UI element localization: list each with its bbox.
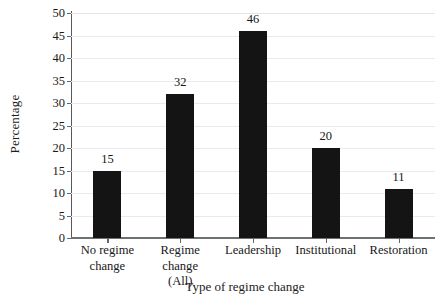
y-tick-mark [67,193,72,194]
y-tick-mark [67,13,72,14]
x-tick-mark [326,238,327,243]
y-tick-label: 25 [53,119,66,132]
bar [385,189,413,239]
y-tick-label: 45 [53,29,66,42]
bar [312,148,340,238]
y-tick-label: 5 [59,209,65,222]
y-tick-mark [67,81,72,82]
bar-value-label: 32 [174,76,187,89]
y-tick-label: 35 [53,74,66,87]
x-axis-title: Type of regime change [0,279,448,295]
y-tick-mark [67,126,72,127]
y-tick-label: 0 [59,232,65,245]
x-tick-label-line: Regime [161,243,200,259]
x-tick-label-line: Leadership [225,243,281,259]
bar-chart: Percentage 05101520253035404550 15324620… [0,0,448,299]
x-tick-label: No regimechange [81,243,135,274]
bar-value-label: 20 [320,130,333,143]
y-tick-label: 20 [53,142,66,155]
bar-value-label: 46 [247,13,260,26]
x-tick-mark [399,238,400,243]
y-tick-mark [67,58,72,59]
plot-area: 05101520253035404550 1532462011 [71,13,435,238]
x-tick-label: Institutional [295,243,356,259]
y-tick-mark [67,36,72,37]
y-tick-label: 50 [53,7,66,20]
x-tick-label-line: Restoration [370,243,428,259]
y-tick-label: 40 [53,52,66,65]
x-tick-mark [180,238,181,243]
x-tick-label-line: No regime [81,243,135,259]
y-tick-mark [67,238,72,239]
x-tick-label: Restoration [370,243,428,259]
x-tick-mark [107,238,108,243]
x-tick-label-line: change [81,259,135,275]
bar [166,94,194,238]
y-tick-mark [67,171,72,172]
y-tick-label: 30 [53,97,66,110]
y-tick-label: 15 [53,164,66,177]
y-tick-mark [67,103,72,104]
bar [239,31,267,238]
y-tick-label: 10 [53,187,66,200]
bar-value-label: 11 [393,170,405,183]
bar [93,171,121,239]
y-tick-mark [67,216,72,217]
x-tick-label: Leadership [225,243,281,259]
x-tick-label-line: change [161,259,200,275]
x-tick-label-line: Institutional [295,243,356,259]
bar-value-label: 15 [101,152,114,165]
y-axis-title: Percentage [4,34,26,214]
y-tick-mark [67,148,72,149]
x-tick-mark [253,238,254,243]
